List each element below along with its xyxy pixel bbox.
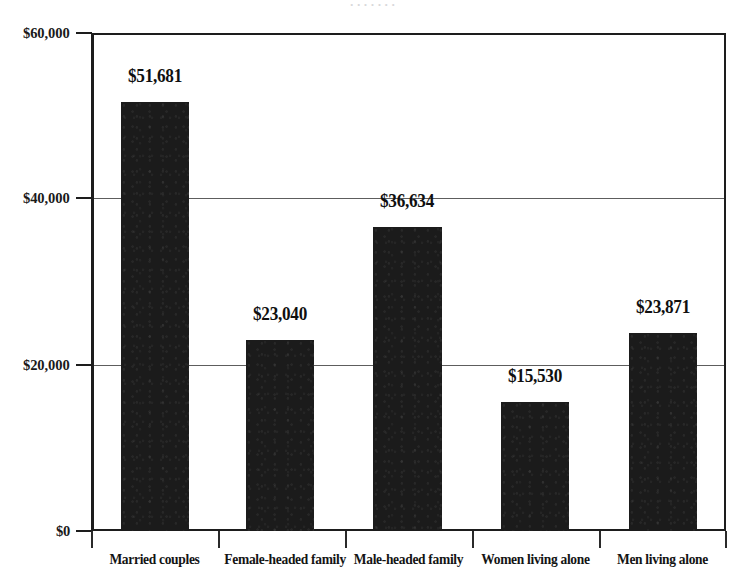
bar-male-headed-family	[373, 227, 442, 531]
y-axis-label-20000: $20,000	[23, 356, 70, 374]
bar-men-living-alone	[629, 333, 697, 531]
cropped-title-remnant: · · · · · · ·	[0, 0, 745, 9]
category-tick-3	[472, 531, 474, 548]
category-tick-1	[218, 531, 220, 548]
value-label-male-headed-family: $36,634	[351, 191, 463, 212]
category-label-men-living-alone: Men living alone	[605, 551, 719, 568]
category-tick-4	[599, 531, 601, 548]
value-label-female-headed-family: $23,040	[224, 304, 336, 325]
bar-chart: · · · · · · · $60,000 $40,000 $20,000 $0…	[0, 0, 745, 581]
category-tick-0	[91, 531, 93, 548]
category-tick-2	[345, 531, 347, 548]
value-label-women-living-alone: $15,530	[479, 366, 591, 387]
category-tick-5	[725, 531, 727, 548]
y-tick-0	[76, 530, 92, 532]
category-label-female-headed-family: Female-headed family	[224, 551, 338, 568]
value-label-married-couples: $51,681	[99, 66, 211, 87]
y-tick-40000	[76, 197, 92, 199]
category-label-male-headed-family: Male-headed family	[351, 551, 465, 568]
bar-women-living-alone	[501, 402, 569, 531]
value-label-men-living-alone: $23,871	[607, 297, 719, 318]
category-label-married-couples: Married couples	[97, 551, 211, 568]
bar-married-couples	[121, 102, 189, 531]
y-axis-label-0: $0	[56, 522, 70, 540]
category-label-women-living-alone: Women living alone	[478, 551, 592, 568]
y-tick-60000	[76, 32, 92, 34]
y-tick-20000	[76, 364, 92, 366]
bar-female-headed-family	[246, 340, 314, 531]
y-axis-label-60000: $60,000	[23, 24, 70, 42]
y-axis-label-40000: $40,000	[23, 189, 70, 207]
